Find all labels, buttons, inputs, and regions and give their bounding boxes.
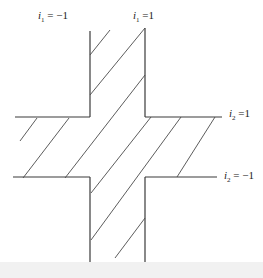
hatch-line bbox=[90, 30, 110, 55]
cross-region-diagram: i1 = −1 i1 =1 i2 =1 i2 = −1 bbox=[0, 0, 263, 278]
label-rel: = bbox=[45, 9, 57, 21]
hatch-line bbox=[91, 117, 151, 193]
hatch-line bbox=[115, 218, 145, 258]
label-value: −1 bbox=[242, 169, 254, 181]
label-rel: = bbox=[140, 9, 149, 21]
label-rel: = bbox=[231, 169, 243, 181]
label-i1-pos: i1 =1 bbox=[133, 9, 154, 24]
hatching bbox=[20, 28, 215, 258]
label-i1-neg: i1 = −1 bbox=[38, 9, 68, 24]
label-value: 1 bbox=[149, 9, 155, 21]
boundary-lines bbox=[13, 28, 222, 262]
label-rel: = bbox=[236, 107, 245, 119]
hatch-line bbox=[177, 117, 215, 177]
hatch-line bbox=[20, 118, 37, 141]
label-i2-pos: i2 =1 bbox=[229, 107, 250, 122]
label-value: 1 bbox=[245, 107, 251, 119]
hatch-line bbox=[65, 75, 145, 178]
label-value: −1 bbox=[56, 9, 68, 21]
diagram-svg bbox=[0, 0, 263, 278]
label-i2-neg: i2 = −1 bbox=[224, 169, 254, 184]
